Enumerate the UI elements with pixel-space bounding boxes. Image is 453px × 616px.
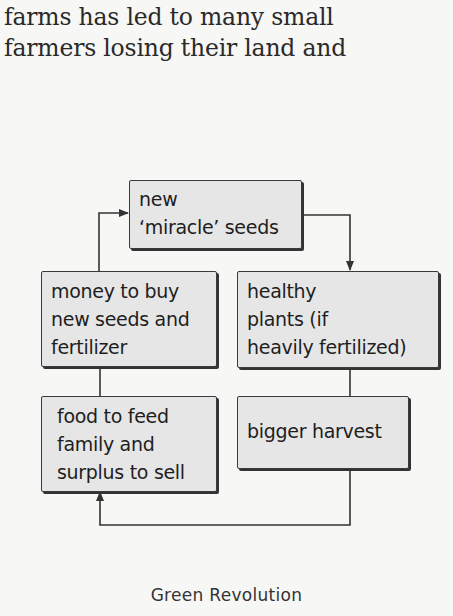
node-text: new seeds and xyxy=(51,305,207,333)
node-text: bigger harvest xyxy=(247,417,399,445)
node-money-to-buy: money to buy new seeds and fertilizer xyxy=(41,271,217,367)
node-text: food to feed xyxy=(57,402,207,430)
node-text: plants (if xyxy=(247,305,429,333)
node-text: heavily fertilized) xyxy=(247,333,429,361)
node-text: family and xyxy=(57,430,207,458)
edge-seeds-to-plants xyxy=(302,215,350,270)
node-text: money to buy xyxy=(51,277,207,305)
node-text: healthy xyxy=(247,277,429,305)
node-text: fertilizer xyxy=(51,333,207,361)
diagram-caption: Green Revolution xyxy=(0,585,453,605)
node-new-miracle-seeds: new ‘miracle’ seeds xyxy=(129,180,302,249)
edge-money-to-seeds xyxy=(99,213,128,271)
node-bigger-harvest: bigger harvest xyxy=(237,396,409,469)
node-text: ‘miracle’ seeds xyxy=(139,213,292,241)
node-text: surplus to sell xyxy=(57,458,207,486)
node-food-and-surplus: food to feed family and surplus to sell xyxy=(41,396,217,492)
node-healthy-plants: healthy plants (if heavily fertilized) xyxy=(237,271,439,368)
node-text: new xyxy=(139,185,292,213)
